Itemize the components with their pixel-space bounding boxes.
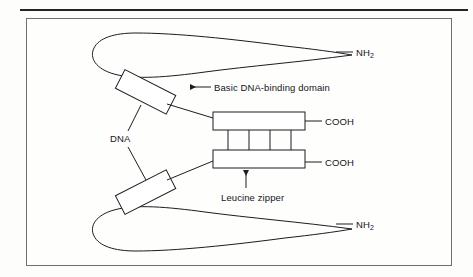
leucine-zipper-diagram <box>0 0 473 277</box>
dna-strand-lower <box>92 207 352 251</box>
label-dna: DNA <box>110 133 130 144</box>
protein-arm-lower <box>167 161 213 180</box>
label-nh2-top: NH2 <box>356 47 374 58</box>
label-cooh-bottom: COOH <box>325 157 354 168</box>
label-cooh-top: COOH <box>325 116 354 127</box>
label-leucine-zipper: Leucine zipper <box>221 192 284 203</box>
zipper-rungs <box>228 130 291 150</box>
dna-leader-lines <box>128 105 146 180</box>
protein-arm-upper <box>167 104 213 118</box>
zipper-bar-upper <box>213 112 305 130</box>
label-nh2-bottom: NH2 <box>356 219 374 230</box>
dna-strand-upper <box>92 33 352 77</box>
label-basic-dna-binding-domain: Basic DNA-binding domain <box>214 82 330 93</box>
figure-page: NH2 NH2 COOH COOH Basic DNA-binding doma… <box>0 0 473 277</box>
zipper-bar-lower <box>213 150 305 168</box>
